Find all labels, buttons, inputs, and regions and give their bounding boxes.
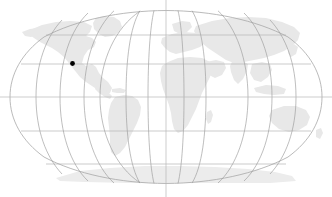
world-map-canvas[interactable]	[0, 0, 332, 197]
world-map-widget[interactable]	[0, 0, 332, 197]
location-marker-dot[interactable]	[70, 61, 75, 66]
